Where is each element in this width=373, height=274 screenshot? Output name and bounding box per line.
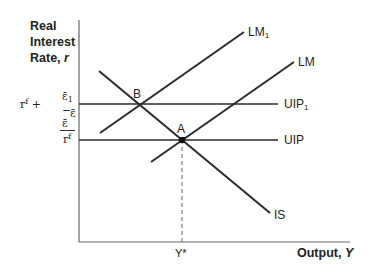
- lm-curve: [151, 62, 294, 162]
- lm1-label: LM1: [248, 25, 269, 40]
- y-label-line1: Real: [30, 18, 75, 34]
- y-label-line3: Rate, r: [30, 50, 75, 66]
- y-axis-label: Real Interest Rate, r: [30, 18, 75, 66]
- lm1-curve: [100, 32, 244, 133]
- fraction-denominator: ε̄: [70, 107, 76, 120]
- is-label: IS: [274, 208, 285, 222]
- uip-label: UIP: [284, 133, 304, 147]
- point-b-label: B: [133, 87, 141, 101]
- point-a-marker: [179, 137, 185, 143]
- point-a-label: A: [177, 122, 185, 136]
- x-axis-label: Output, Y: [297, 246, 353, 260]
- rf-plus-label: rf +: [20, 97, 41, 111]
- rf-label: rf: [63, 132, 71, 146]
- y-label-line2: Interest: [30, 34, 75, 50]
- ystar-label: Y*: [175, 247, 187, 259]
- lm-label: LM: [298, 55, 315, 69]
- uip1-label: UIP1: [284, 97, 308, 112]
